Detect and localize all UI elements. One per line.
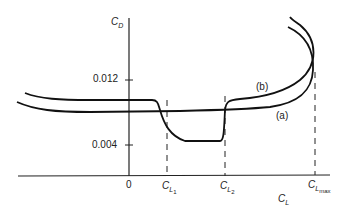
cl2-label: CL2 [220, 180, 234, 191]
curve-b [25, 17, 314, 141]
cl1-label: CL1 [162, 180, 176, 191]
drag-polar-figure: CD 0.012 0.004 0 CL1 CL2 CLmax CL (b) (a… [0, 0, 352, 217]
y-axis-label: CD [111, 16, 123, 27]
clmax-label: CLmax [308, 179, 330, 190]
y-tick-label-high: 0.012 [93, 73, 118, 84]
curve-a-label: (a) [276, 110, 288, 121]
x-axis [18, 175, 330, 176]
origin-label: 0 [126, 179, 132, 190]
curve-b-label: (b) [256, 81, 268, 92]
y-tick-label-low: 0.004 [92, 139, 117, 150]
x-axis-label: CL [278, 193, 289, 204]
